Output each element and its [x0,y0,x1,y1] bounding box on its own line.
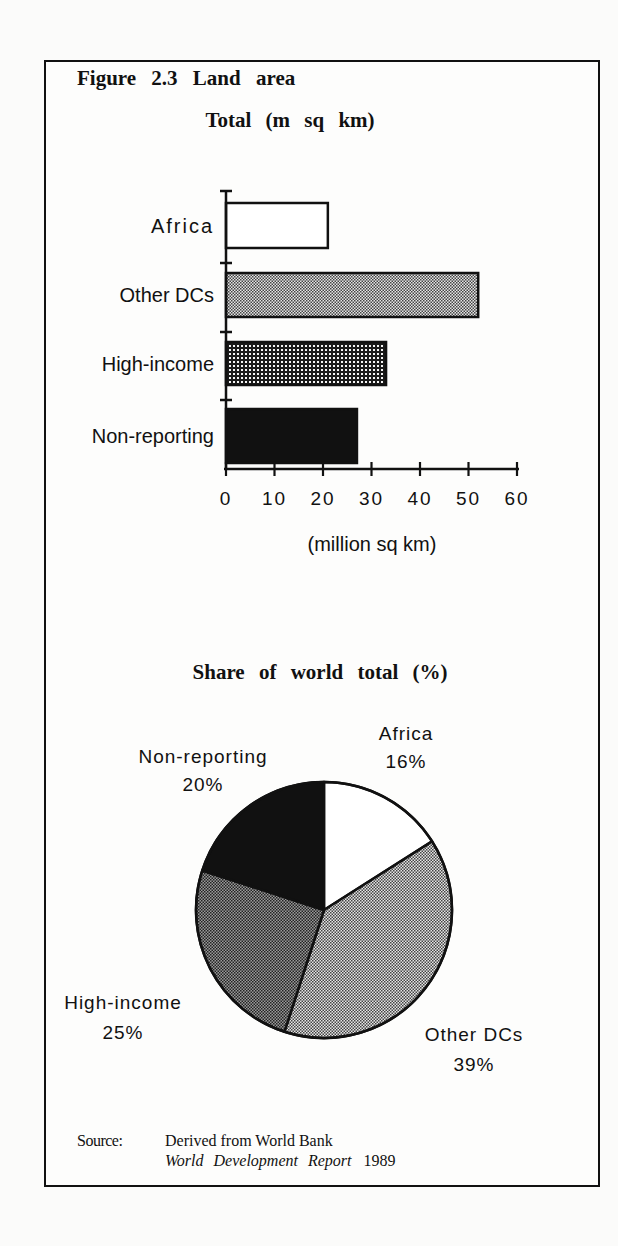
pie-label-percent: 39% [453,1054,494,1075]
pie-slices [196,782,452,1038]
pie-label-percent: 20% [182,774,223,795]
source-line-2: World Development Report 1989 [77,1151,395,1171]
pie-label-category: High-income [64,992,182,1013]
source-year: 1989 [363,1152,395,1169]
x-tick-label: 20 [310,488,335,509]
bar-chart: AfricaOther DCsHigh-incomeNon-reporting … [92,190,530,555]
source-text: Derived from World Bank [165,1132,333,1149]
bar-non-reporting [226,409,357,463]
bar-category-label: High-income [102,353,214,375]
source-label: Source: [77,1131,165,1151]
bar-other-dcs [226,273,478,317]
bar-series [226,203,478,463]
bar-high-income [226,342,386,385]
pie-label-category: Africa [379,723,434,744]
source-note: Source:Derived from World Bank World Dev… [77,1131,395,1171]
x-tick-label: 50 [456,488,481,509]
x-tick-label: 0 [220,488,233,509]
bar-category-label: Non-reporting [92,425,214,447]
pie-label-category: Non-reporting [138,746,267,767]
charts-canvas: AfricaOther DCsHigh-incomeNon-reporting … [0,0,618,1246]
pie-label-category: Other DCs [425,1024,524,1045]
x-tick-label: 60 [504,488,529,509]
x-tick-label: 10 [262,488,287,509]
pie-label-percent: 16% [385,751,426,772]
source-line-1: Source:Derived from World Bank [77,1131,395,1151]
bar-africa [226,203,328,248]
x-tick-label: 30 [359,488,384,509]
x-axis-label: (million sq km) [308,533,437,555]
pie-label-percent: 25% [102,1022,143,1043]
bar-category-label: Other DCs [120,284,214,306]
bar-category-label: Africa [151,215,214,237]
source-publication: World Development Report [165,1152,351,1169]
x-tick-label: 40 [407,488,432,509]
pie-chart: Africa16%Other DCs39%High-income25%Non-r… [64,723,523,1075]
bar-category-labels: AfricaOther DCsHigh-incomeNon-reporting [92,215,214,448]
